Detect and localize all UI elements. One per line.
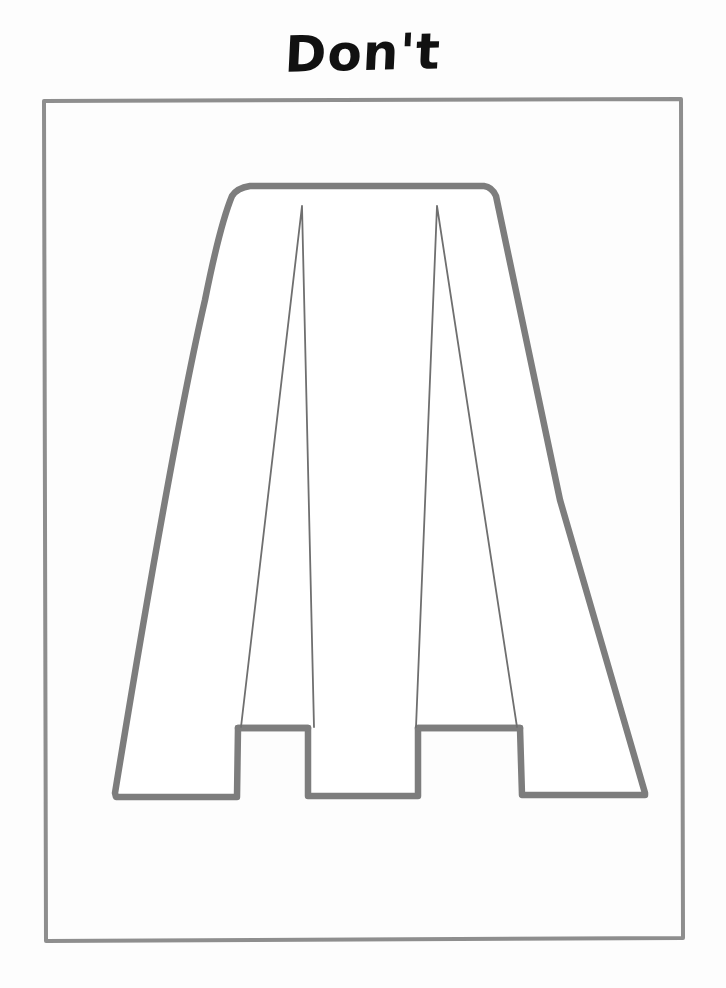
- illustration-canvas: [0, 0, 726, 988]
- skirt-outline: [115, 186, 645, 797]
